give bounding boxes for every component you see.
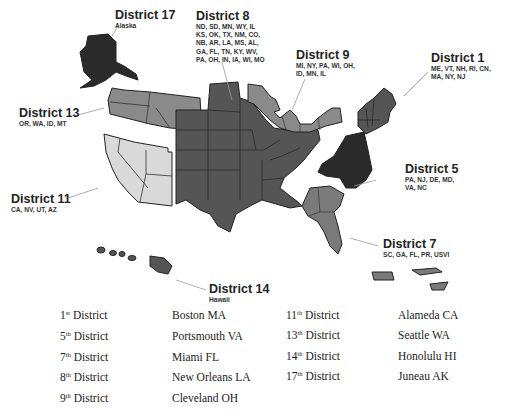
legend-city: Honolulu HI bbox=[398, 350, 456, 366]
label-district-17: District 17 Alaska bbox=[115, 9, 175, 30]
district-title: District 13 bbox=[19, 107, 79, 120]
region-usvi[interactable] bbox=[412, 268, 442, 275]
district-states: MI, NY, PA, WI, OH, ID, MN, IL bbox=[296, 62, 355, 78]
region-district-5[interactable] bbox=[318, 132, 372, 188]
legend-row: 11th District bbox=[286, 309, 340, 325]
legend-city: Miami FL bbox=[172, 351, 219, 367]
legend-row: 14th District bbox=[286, 350, 340, 366]
district-states: ME, VT, NH, RI, CN, MA, NY, NJ bbox=[431, 65, 491, 81]
legend-city: Portsmouth VA bbox=[172, 330, 243, 346]
region-district-7[interactable] bbox=[302, 186, 344, 254]
region-district-11[interactable] bbox=[104, 134, 172, 206]
legend-row: 13th District bbox=[286, 329, 340, 345]
label-district-5: District 5 PA, NJ, DE, MD, VA, NC bbox=[405, 163, 459, 192]
district-states: ND, SD, MN, WY, IL KS, OK, TX, NM, CO, N… bbox=[196, 23, 265, 64]
region-islands-east[interactable] bbox=[430, 282, 448, 290]
legend-city: Alameda CA bbox=[398, 309, 458, 325]
label-district-11: District 11 CA, NV, UT, AZ bbox=[11, 193, 71, 214]
label-district-1: District 1 ME, VT, NH, RI, CN, MA, NY, N… bbox=[431, 52, 491, 81]
legend-row: 7th District bbox=[60, 351, 108, 367]
district-title: District 1 bbox=[431, 52, 491, 65]
legend-row: 9th District bbox=[60, 392, 108, 408]
district-states: PA, NJ, DE, MD, VA, NC bbox=[405, 176, 459, 192]
label-district-13: District 13 OR, WA, ID, MT bbox=[19, 107, 79, 128]
district-states: Alaska bbox=[115, 22, 175, 30]
legend-city: Juneau AK bbox=[398, 370, 449, 386]
legend-city: Cleveland OH bbox=[172, 392, 238, 408]
district-title: District 9 bbox=[296, 49, 355, 62]
legend-city: Seattle WA bbox=[398, 329, 450, 345]
legend-row: 1st District bbox=[60, 309, 107, 325]
district-title: District 7 bbox=[383, 238, 449, 251]
legend-row: 8th District bbox=[60, 371, 108, 387]
label-district-14: District 14 Hawaii bbox=[209, 283, 269, 304]
district-states: Hawaii bbox=[209, 296, 269, 304]
district-states: CA, NV, UT, AZ bbox=[11, 206, 71, 214]
legend-city: Boston MA bbox=[172, 309, 226, 325]
region-district-1[interactable] bbox=[358, 88, 396, 134]
district-title: District 5 bbox=[405, 163, 459, 176]
district-title: District 8 bbox=[196, 10, 265, 23]
region-alaska[interactable] bbox=[80, 34, 138, 88]
district-states: SC, GA, FL, PR, USVI bbox=[383, 251, 449, 259]
legend-city: New Orleans LA bbox=[172, 371, 251, 387]
district-title: District 14 bbox=[209, 283, 269, 296]
district-title: District 17 bbox=[115, 9, 175, 22]
district-office-legend: 1st District Boston MA 5th District Port… bbox=[0, 305, 507, 417]
region-puerto-rico[interactable] bbox=[372, 272, 394, 280]
label-district-8: District 8 ND, SD, MN, WY, IL KS, OK, TX… bbox=[196, 10, 265, 64]
district-states: OR, WA, ID, MT bbox=[19, 120, 79, 128]
district-title: District 11 bbox=[11, 193, 71, 206]
legend-row: 5th District bbox=[60, 330, 108, 346]
label-district-7: District 7 SC, GA, FL, PR, USVI bbox=[383, 238, 449, 259]
region-hawaii[interactable] bbox=[97, 247, 172, 274]
label-district-9: District 9 MI, NY, PA, WI, OH, ID, MN, I… bbox=[296, 49, 355, 78]
legend-row: 17th District bbox=[286, 370, 340, 386]
